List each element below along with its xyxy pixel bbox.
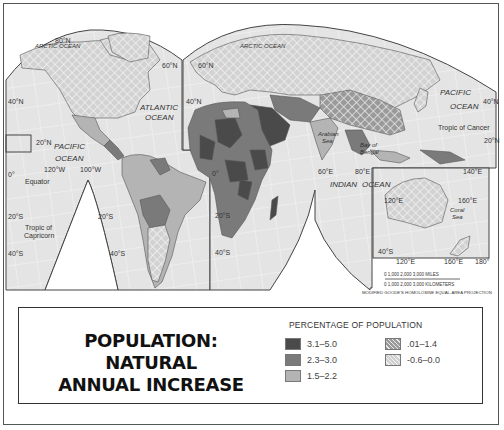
svg-text:40°N: 40°N [8, 98, 24, 105]
legend-item-neg-0-6-0-0: -0.6–0.0 [385, 354, 440, 366]
svg-text:120°E: 120°E [396, 258, 415, 265]
svg-text:Tropic of: Tropic of [25, 224, 52, 232]
svg-text:Tropic of Cancer: Tropic of Cancer [438, 124, 490, 132]
svg-text:40°N: 40°N [186, 98, 202, 105]
scale-bar: 0 1,000 2,000 3,000 MILES 0 1,000 2,000 … [362, 272, 492, 295]
svg-text:20°N: 20°N [36, 139, 52, 146]
svg-text:80°E: 80°E [355, 168, 371, 175]
legend-item-0-01-1-4: .01–1.4 [385, 338, 437, 350]
svg-text:PACIFIC: PACIFIC [54, 142, 85, 151]
svg-text:Coral: Coral [450, 207, 465, 213]
svg-text:20°S: 20°S [8, 213, 24, 220]
legend-heading: PERCENTAGE OF POPULATION [289, 320, 422, 330]
svg-text:100°W: 100°W [80, 166, 101, 173]
map-title: POPULATION: NATURAL ANNUAL INCREASE [41, 330, 261, 396]
svg-text:Equator: Equator [25, 178, 50, 186]
svg-text:OCEAN: OCEAN [55, 154, 84, 163]
svg-text:0°: 0° [212, 170, 219, 177]
svg-text:40°N: 40°N [483, 98, 499, 105]
swatch-crosshatch-light [385, 354, 401, 366]
svg-text:ARCTIC OCEAN: ARCTIC OCEAN [34, 43, 81, 49]
svg-text:PACIFIC: PACIFIC [440, 88, 471, 97]
svg-text:60°N: 60°N [162, 62, 178, 69]
legend-item-1-5-2-2: 1.5–2.2 [285, 370, 337, 382]
svg-text:0 1,000 2,000 3,000 KILOMET: 0 1,000 2,000 3,000 KILOMETERS [384, 282, 454, 287]
svg-text:40°S: 40°S [110, 250, 126, 257]
legend-box: POPULATION: NATURAL ANNUAL INCREASE PERC… [18, 307, 483, 404]
swatch-light [285, 370, 301, 382]
svg-text:OCEAN: OCEAN [450, 102, 479, 111]
svg-text:Bengal: Bengal [360, 149, 379, 155]
svg-text:Sea: Sea [452, 214, 463, 220]
swatch-medium [285, 354, 301, 366]
title-line-1: POPULATION: NATURAL [41, 330, 261, 374]
svg-text:Capricorn: Capricorn [24, 232, 54, 240]
svg-text:OCEAN: OCEAN [362, 180, 391, 189]
svg-text:60°N: 60°N [198, 62, 214, 69]
svg-text:ATLANTIC: ATLANTIC [139, 103, 178, 112]
svg-text:40°S: 40°S [378, 248, 394, 255]
svg-text:OCEAN: OCEAN [145, 113, 174, 122]
svg-text:60°E: 60°E [318, 168, 334, 175]
swatch-crosshatch-dark [385, 338, 401, 350]
svg-text:ARCTIC OCEAN: ARCTIC OCEAN [239, 43, 286, 49]
legend-item-2-3-3-0: 2.3–3.0 [285, 354, 337, 366]
svg-text:Bay of: Bay of [360, 142, 378, 148]
svg-text:INDIAN: INDIAN [330, 180, 357, 189]
svg-text:140°E: 140°E [463, 168, 482, 175]
svg-text:40°S: 40°S [8, 250, 24, 257]
title-line-2: ANNUAL INCREASE [41, 374, 261, 396]
svg-text:20°N: 20°N [484, 137, 500, 144]
svg-text:Arabian: Arabian [317, 131, 339, 137]
swatch-dark [285, 338, 301, 350]
svg-text:Sea: Sea [322, 138, 333, 144]
svg-text:160°E: 160°E [458, 197, 477, 204]
svg-text:160°E: 160°E [444, 258, 463, 265]
svg-text:180°: 180° [475, 258, 490, 265]
svg-text:120°W: 120°W [44, 166, 65, 173]
svg-text:20°S: 20°S [215, 212, 231, 219]
svg-text:120°E: 120°E [384, 197, 403, 204]
svg-text:0 1,000 2,000 3,000 MIL: 0 1,000 2,000 3,000 MILES [384, 272, 439, 277]
svg-text:MODIFIED GOODE'S HOMOLOSINE EQ: MODIFIED GOODE'S HOMOLOSINE EQUAL-AREA P… [362, 290, 492, 295]
svg-text:20°S: 20°S [98, 213, 114, 220]
svg-text:40°S: 40°S [215, 249, 231, 256]
legend-item-3-1-5-0: 3.1–5.0 [285, 338, 337, 350]
svg-text:0°: 0° [8, 171, 15, 178]
